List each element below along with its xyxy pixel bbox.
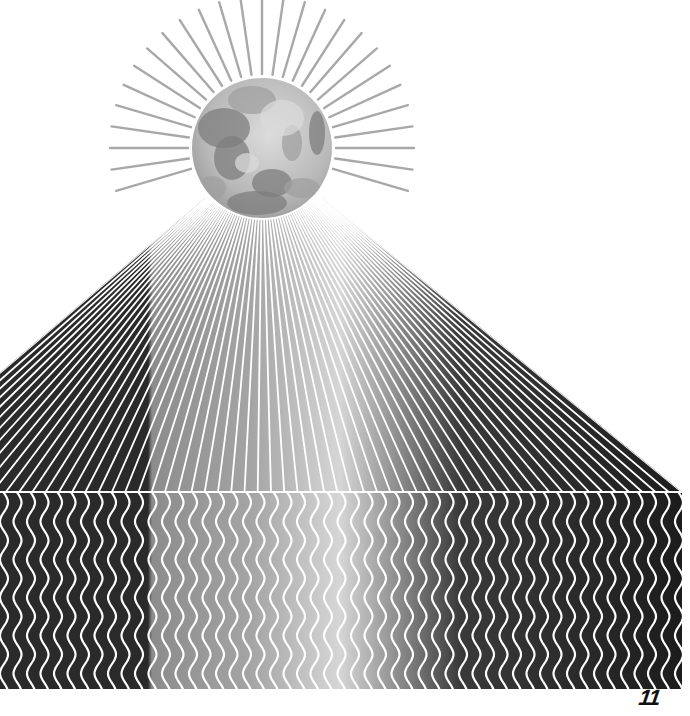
moon [190,76,334,220]
wavy-stripe-band [0,488,683,694]
striped-pyramid [0,198,690,493]
page-number: 11 [637,685,661,711]
moon-pyramid-illustration [0,0,690,716]
